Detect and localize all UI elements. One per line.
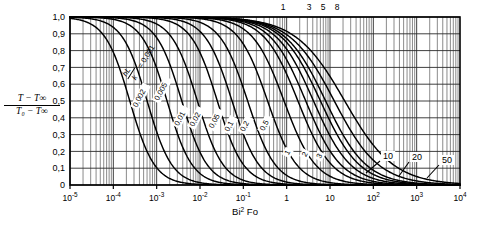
y-axis-label-denominator: T₀ − T∞ — [4, 106, 60, 117]
y-axis-numerator-text: T − T∞ — [18, 93, 46, 103]
top-tick-label: 1 — [281, 2, 286, 12]
y-axis-tick-label: 0,1 — [52, 163, 65, 173]
x-axis-tick-label: 10 — [325, 193, 335, 203]
y-axis-denominator-text: T₀ − T∞ — [16, 106, 48, 116]
x-axis-tick-label: 1 — [284, 193, 289, 203]
y-axis-tick-label: 0,3 — [52, 130, 65, 140]
curve-label-text: 50 — [442, 155, 452, 165]
y-axis-tick-label: 0,6 — [52, 79, 65, 89]
curve-label-text: 20 — [412, 152, 422, 162]
y-axis-tick-label: 0,9 — [52, 29, 65, 39]
y-axis-tick-label: 0 — [60, 180, 65, 190]
y-axis-label: T − T∞ T₀ − T∞ — [4, 94, 60, 117]
chart-canvas: 1,00,90,80,70,60,50,40,30,20,1010-510-41… — [0, 0, 481, 232]
y-axis-tick-label: 0,7 — [52, 63, 65, 73]
y-axis-tick-label: 0,2 — [52, 147, 65, 157]
top-tick-label: 3 — [307, 2, 312, 12]
x-axis-title: Bi2 Fo — [232, 206, 258, 217]
curve-label-text: 10 — [383, 151, 393, 161]
y-axis-tick-label: 0,8 — [52, 46, 65, 56]
top-tick-label: 5 — [321, 2, 326, 12]
y-axis-tick-label: 1,0 — [52, 12, 65, 22]
heisler-chart: 1,00,90,80,70,60,50,40,30,20,1010-510-41… — [0, 0, 481, 232]
top-tick-label: 8 — [335, 2, 340, 12]
y-axis-label-numerator: T − T∞ — [4, 94, 60, 106]
